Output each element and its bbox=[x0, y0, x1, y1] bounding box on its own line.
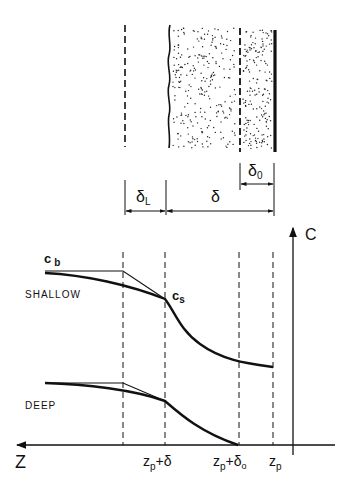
stipple-dot bbox=[208, 86, 209, 87]
stipple-dot bbox=[264, 49, 265, 50]
stipple-dot bbox=[242, 99, 243, 100]
stipple-dot bbox=[208, 63, 209, 64]
stipple-dot bbox=[194, 55, 195, 56]
stipple-dot bbox=[246, 131, 247, 132]
stipple-dot bbox=[261, 114, 262, 115]
stipple-dot bbox=[233, 28, 234, 29]
stipple-dot bbox=[244, 56, 245, 57]
stipple-dot bbox=[180, 81, 181, 82]
stipple-dot bbox=[210, 77, 211, 78]
stipple-dot bbox=[202, 143, 203, 144]
stipple-dot bbox=[271, 43, 272, 44]
stipple-dot bbox=[267, 98, 268, 99]
stipple-dot bbox=[256, 108, 257, 109]
stipple-dot bbox=[197, 57, 198, 58]
stipple-dot bbox=[210, 107, 211, 108]
stipple-dot bbox=[176, 58, 177, 59]
stipple-dot bbox=[229, 77, 230, 78]
stipple-dot bbox=[250, 100, 251, 101]
stipple-dot bbox=[244, 44, 245, 45]
stipple-dot bbox=[245, 123, 246, 124]
stipple-dot bbox=[246, 51, 247, 52]
stipple-dot bbox=[173, 118, 174, 119]
stipple-dot bbox=[267, 64, 268, 65]
stipple-dot bbox=[248, 124, 249, 125]
stipple-dot bbox=[235, 94, 236, 95]
stipple-dot bbox=[245, 140, 246, 141]
stipple-dot bbox=[195, 145, 196, 146]
stipple-dot bbox=[208, 30, 209, 31]
stipple-dot bbox=[204, 34, 205, 35]
shallow-label: SHALLOW bbox=[25, 289, 81, 300]
stipple-dot bbox=[248, 69, 249, 70]
stipple-dot bbox=[265, 118, 266, 119]
delta-L-label: δL bbox=[136, 188, 151, 207]
stipple-dot bbox=[245, 105, 246, 106]
stipple-dot bbox=[234, 89, 235, 90]
stipple-dot bbox=[270, 120, 271, 121]
stipple-dot bbox=[262, 101, 263, 102]
stipple-dot bbox=[232, 55, 233, 56]
stipple-dot bbox=[267, 119, 268, 120]
stipple-dot bbox=[253, 78, 254, 79]
stipple-dot bbox=[172, 81, 173, 82]
stipple-dot bbox=[186, 75, 187, 76]
stipple-dot bbox=[255, 137, 256, 138]
stipple-dot bbox=[262, 41, 263, 42]
stipple-dot bbox=[197, 138, 198, 139]
stipple-dot bbox=[244, 49, 245, 50]
stipple-dot bbox=[262, 140, 263, 141]
stipple-dot bbox=[181, 29, 182, 30]
stipple-dot bbox=[216, 116, 217, 117]
stipple-dot bbox=[187, 95, 188, 96]
stipple-dot bbox=[175, 77, 176, 78]
c-s-label: cs bbox=[172, 288, 185, 305]
stipple-dot bbox=[253, 135, 254, 136]
stipple-dot bbox=[259, 106, 260, 107]
stipple-dot bbox=[262, 116, 263, 117]
stipple-dot bbox=[194, 139, 195, 140]
stipple-dot bbox=[178, 53, 179, 54]
stipple-dot bbox=[260, 60, 261, 61]
stipple-dot bbox=[205, 118, 206, 119]
stipple-dot bbox=[216, 105, 217, 106]
stipple-dot bbox=[266, 126, 267, 127]
delta-0-label: δ0 bbox=[248, 162, 263, 181]
stipple-dot bbox=[254, 62, 255, 63]
stipple-dot bbox=[183, 146, 184, 147]
stipple-dot bbox=[245, 102, 246, 103]
stipple-dot bbox=[223, 44, 224, 45]
tick-zp: zp bbox=[269, 453, 282, 472]
stipple-dot bbox=[266, 38, 267, 39]
stipple-dot bbox=[221, 52, 222, 53]
stipple-dot bbox=[265, 106, 266, 107]
stipple-dot bbox=[246, 60, 247, 61]
stipple-dot bbox=[258, 88, 259, 89]
stipple-dot bbox=[178, 87, 179, 88]
stipple-dot bbox=[252, 91, 253, 92]
stipple-dot bbox=[221, 37, 222, 38]
stipple-dot bbox=[264, 88, 265, 89]
stipple-dot bbox=[181, 66, 182, 67]
stipple-dot bbox=[181, 112, 182, 113]
stipple-dot bbox=[262, 51, 263, 52]
stipple-dot bbox=[200, 87, 201, 88]
stipple-dot bbox=[200, 111, 201, 112]
stipple-dot bbox=[203, 57, 204, 58]
stipple-dot bbox=[249, 90, 250, 91]
stipple-dot bbox=[183, 123, 184, 124]
stipple-dot bbox=[220, 43, 221, 44]
stipple-dot bbox=[226, 147, 227, 148]
stipple-dot bbox=[269, 116, 270, 117]
stipple-dot bbox=[259, 142, 260, 143]
stipple-dot bbox=[260, 46, 261, 47]
stipple-dot bbox=[266, 121, 267, 122]
stipple-dot bbox=[249, 95, 250, 96]
stipple-dot bbox=[248, 120, 249, 121]
stipple-dot bbox=[202, 89, 203, 90]
stipple-dot bbox=[202, 131, 203, 132]
stipple-dot bbox=[264, 113, 265, 114]
stipple-dot bbox=[211, 73, 212, 74]
stipple-dot bbox=[195, 116, 196, 117]
stipple-dot bbox=[178, 146, 179, 147]
